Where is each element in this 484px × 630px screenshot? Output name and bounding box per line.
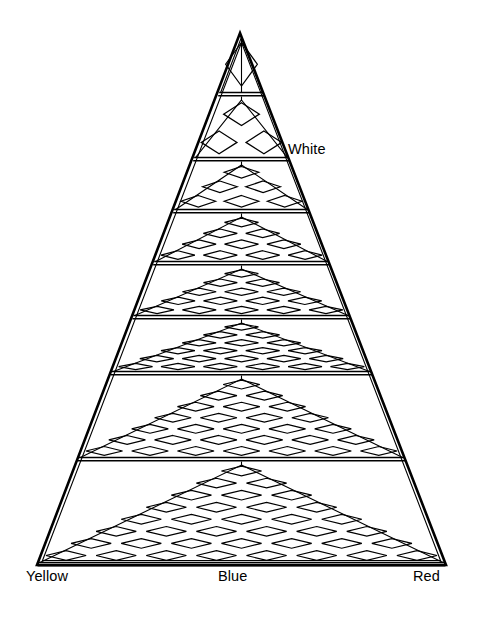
corner-label-red: Red xyxy=(413,568,440,584)
color-pyramid-figure: White Yellow Blue Red xyxy=(0,0,484,630)
corner-label-yellow: Yellow xyxy=(26,568,68,584)
pyramid-drawing xyxy=(0,0,484,630)
apex-label-white: White xyxy=(288,141,326,157)
corner-label-blue: Blue xyxy=(218,568,247,584)
pyramid-outline xyxy=(37,33,446,565)
band-group xyxy=(38,37,446,566)
diamond-lattice-group xyxy=(46,42,437,560)
